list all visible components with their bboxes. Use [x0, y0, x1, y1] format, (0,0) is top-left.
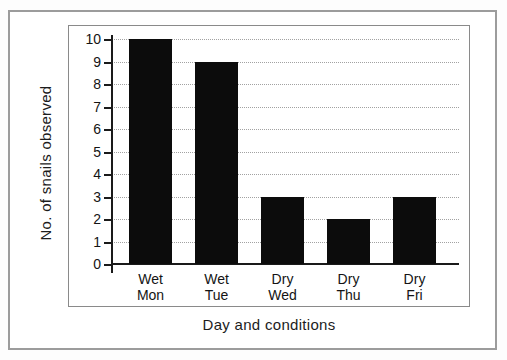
y-tick-label: 8	[69, 75, 101, 93]
y-tick-label: 2	[69, 210, 101, 228]
x-category-label: Wet Tue	[184, 271, 250, 303]
scanned-bar-chart-figure: No. of snails observed 012345678910 Wet …	[0, 0, 507, 360]
x-category-label: Dry Thu	[316, 271, 382, 303]
bar	[195, 62, 238, 265]
bar	[129, 39, 172, 264]
y-tick-label: 0	[69, 255, 101, 273]
bar	[393, 197, 436, 265]
bar	[261, 197, 304, 265]
y-tick-label: 6	[69, 120, 101, 138]
y-tick-label: 1	[69, 233, 101, 251]
x-axis-title: Day and conditions	[68, 316, 470, 333]
y-axis-line	[111, 35, 113, 273]
y-axis-title: No. of snails observed	[37, 85, 54, 240]
x-category-label: Dry Fri	[382, 271, 448, 303]
x-category-label: Wet Mon	[118, 271, 184, 303]
bar	[327, 219, 370, 264]
y-tick-label: 3	[69, 188, 101, 206]
y-tick-label: 4	[69, 165, 101, 183]
plot-area: 012345678910 Wet MonWet TueDry WedDry Th…	[68, 25, 470, 307]
y-tick-label: 9	[69, 53, 101, 71]
x-category-label: Dry Wed	[250, 271, 316, 303]
y-tick-label: 7	[69, 98, 101, 116]
y-tick-label: 10	[69, 30, 101, 48]
y-tick-label: 5	[69, 143, 101, 161]
